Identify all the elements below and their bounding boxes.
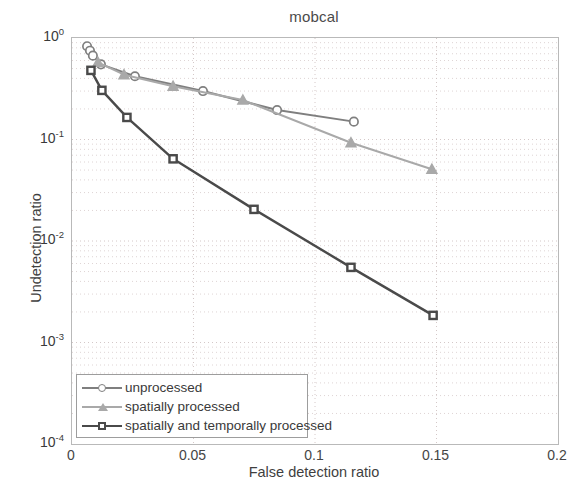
figure-mobcal: mobcal 00.050.10.150.2 10010-110-210-310… xyxy=(0,0,586,487)
y-tick-label: 10-4 xyxy=(0,432,71,451)
legend-sample-triangle xyxy=(82,400,122,414)
legend-sample-circle xyxy=(82,381,122,395)
legend-label: unprocessed xyxy=(125,380,202,395)
y-axis-label: Undetection ratio xyxy=(28,128,44,368)
y-tick-mantissa: 10 xyxy=(40,434,56,450)
y-tick-mantissa: 10 xyxy=(43,28,59,44)
legend-box: unprocessedspatially processedspatially … xyxy=(76,374,308,438)
legend-item-spatially-and-temporally-processed[interactable]: spatially and temporally processed xyxy=(82,416,302,435)
y-tick-exponent: -2 xyxy=(56,229,64,240)
y-tick-exponent: -4 xyxy=(56,432,64,443)
legend-item-unprocessed[interactable]: unprocessed xyxy=(82,378,302,397)
x-axis-label: False detection ratio xyxy=(71,464,557,480)
triangle-marker-icon xyxy=(98,403,108,411)
legend-sample-square xyxy=(82,419,122,433)
legend-item-spatially-processed[interactable]: spatially processed xyxy=(82,397,302,416)
legend-label: spatially processed xyxy=(125,399,240,414)
y-tick-label: 100 xyxy=(0,26,71,45)
square-marker-icon xyxy=(98,422,106,430)
y-tick-exponent: 0 xyxy=(59,26,64,37)
circle-marker-icon xyxy=(98,384,106,392)
y-tick-exponent: -3 xyxy=(56,331,64,342)
y-tick-exponent: -1 xyxy=(56,128,64,139)
legend-label: spatially and temporally processed xyxy=(125,418,332,433)
